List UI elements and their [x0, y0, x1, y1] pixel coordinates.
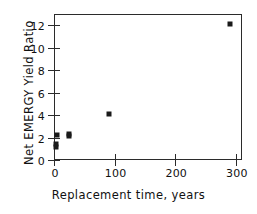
y-tick-label: 2	[38, 133, 45, 144]
plot-area	[54, 14, 242, 160]
y-tick-12: 12	[48, 25, 60, 26]
x-tick-300: 300	[236, 154, 237, 166]
data-point	[54, 142, 59, 147]
y-tick-label: 4	[38, 111, 45, 122]
x-tick-100: 100	[115, 154, 116, 166]
x-tick-200: 200	[175, 154, 176, 166]
x-tick-label: 0	[51, 168, 58, 179]
y-tick-2: 2	[48, 138, 60, 139]
y-tick-label: 8	[38, 66, 45, 77]
y-tick-label: 0	[38, 156, 45, 167]
y-tick-6: 6	[48, 93, 60, 94]
data-point	[227, 22, 232, 27]
data-point	[67, 131, 72, 136]
x-tick-label: 200	[165, 168, 187, 179]
y-tick-4: 4	[48, 115, 60, 116]
y-tick-label: 6	[38, 88, 45, 99]
data-point	[55, 132, 60, 137]
x-axis-label: Replacement time, years	[0, 190, 257, 202]
y-tick-8: 8	[48, 70, 60, 71]
x-tick-0: 0	[54, 154, 55, 166]
data-point	[106, 111, 111, 116]
chart-figure: 024681012 0100200300 Replacement time, y…	[0, 0, 257, 214]
x-tick-label: 300	[226, 168, 248, 179]
x-tick-label: 100	[105, 168, 127, 179]
y-tick-10: 10	[48, 48, 60, 49]
y-axis-label: Net EMERGY Yield Ratio	[24, 8, 36, 178]
